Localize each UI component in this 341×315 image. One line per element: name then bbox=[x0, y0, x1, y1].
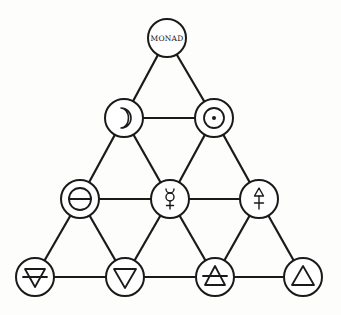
node-moon bbox=[105, 99, 143, 137]
node-mercury bbox=[151, 180, 189, 218]
node-earth bbox=[16, 258, 54, 296]
edges bbox=[35, 38, 303, 277]
tetractys-diagram: MONAD bbox=[0, 0, 341, 315]
node-salt bbox=[61, 180, 99, 218]
node-air bbox=[196, 258, 234, 296]
node-fire bbox=[284, 258, 322, 296]
monad-label: MONAD bbox=[151, 34, 184, 43]
node-sun bbox=[195, 99, 233, 137]
node-monad: MONAD bbox=[148, 19, 186, 57]
node-water bbox=[106, 258, 144, 296]
node-sulfur bbox=[240, 180, 278, 218]
